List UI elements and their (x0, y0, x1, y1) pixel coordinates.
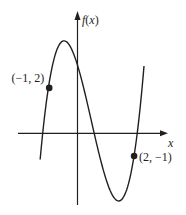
function-graph: x f(x) (−1, 2)(2, −1) (0, 0, 186, 215)
x-axis-arrow (160, 130, 168, 136)
y-axis-label: f(x) (82, 13, 99, 27)
y-axis-arrow (75, 11, 81, 20)
point-label-0: (−1, 2) (11, 71, 44, 85)
point-marker-1 (131, 153, 138, 160)
point-marker-0 (46, 85, 53, 92)
x-axis-label: x (167, 136, 174, 150)
point-label-1: (2, −1) (139, 150, 172, 164)
labeled-points: (−1, 2)(2, −1) (11, 71, 171, 164)
y-label-paren-close: ) (95, 13, 99, 27)
cubic-curve (40, 41, 144, 201)
